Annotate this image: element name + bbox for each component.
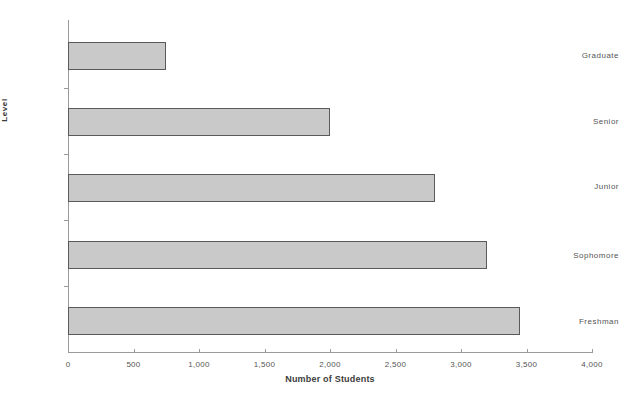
- y-axis-title: Level: [0, 60, 20, 160]
- x-axis-label-2000: 2,000: [310, 360, 350, 369]
- x-axis-label-3000: 3,000: [441, 360, 481, 369]
- y-axis-tick: [64, 220, 68, 221]
- x-axis-title: Number of Students: [68, 374, 592, 384]
- y-axis-label-graduate: Graduate: [557, 51, 619, 60]
- y-axis-label-senior: Senior: [557, 117, 619, 126]
- x-axis-tick: [527, 349, 528, 353]
- x-axis-label-0: 0: [48, 360, 88, 369]
- x-axis-label-1500: 1,500: [245, 360, 285, 369]
- x-axis-tick: [330, 349, 331, 353]
- x-axis-tick: [265, 349, 266, 353]
- x-axis-tick: [199, 349, 200, 353]
- y-axis-label-junior: Junior: [557, 182, 619, 191]
- x-axis-tick: [461, 349, 462, 353]
- bar-graduate: [68, 42, 166, 70]
- bar-freshman: [68, 307, 520, 335]
- x-axis-label-3500: 3,500: [507, 360, 547, 369]
- bar-chart: Level Graduate Senior Junior Sophomore F…: [0, 0, 619, 404]
- x-axis-label-4000: 4,000: [572, 360, 612, 369]
- y-axis-tick: [64, 154, 68, 155]
- bar-junior: [68, 174, 435, 202]
- x-axis-label-1000: 1,000: [179, 360, 219, 369]
- x-axis-tick: [68, 349, 69, 353]
- x-axis-tick: [592, 349, 593, 353]
- bar-senior: [68, 108, 330, 136]
- x-axis-tick: [134, 349, 135, 353]
- y-axis-label-sophomore: Sophomore: [557, 251, 619, 260]
- x-axis-tick: [396, 349, 397, 353]
- y-axis-tick: [64, 88, 68, 89]
- x-axis-label-2500: 2,500: [376, 360, 416, 369]
- x-axis-label-500: 500: [114, 360, 154, 369]
- y-axis-tick: [64, 286, 68, 287]
- bar-sophomore: [68, 241, 487, 269]
- y-axis-label-freshman: Freshman: [557, 317, 619, 326]
